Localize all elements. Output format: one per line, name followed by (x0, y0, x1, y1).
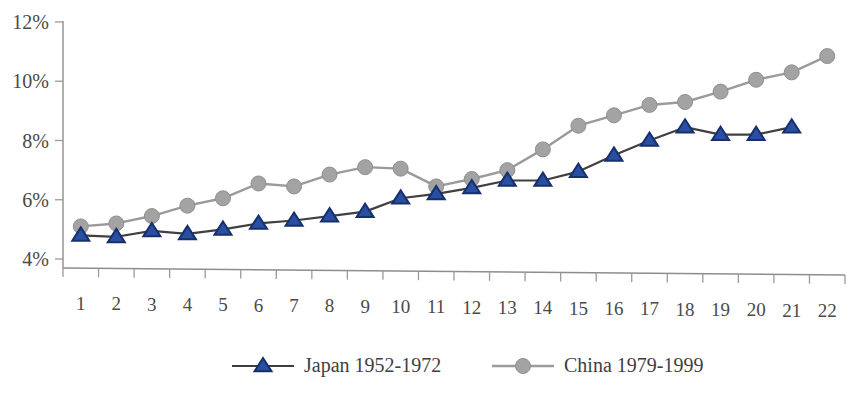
data-point-marker (358, 160, 373, 175)
x-tick-label: 2 (112, 293, 122, 314)
x-tick-label: 4 (183, 294, 193, 315)
data-point-marker (783, 119, 800, 132)
legend-marker-japan (255, 358, 272, 371)
x-tick-label: 19 (711, 299, 730, 320)
legend-marker-china (516, 359, 531, 374)
x-tick-label: 16 (604, 298, 623, 319)
x-tick-label: 17 (640, 298, 659, 319)
data-point-marker (677, 119, 694, 132)
x-tick-label: 18 (676, 299, 695, 320)
chart-container: 12%10%8%6%4% 123456789101112131415161718… (0, 0, 850, 399)
data-point-marker (820, 49, 835, 64)
x-tick-label: 13 (498, 297, 517, 318)
data-point-marker (642, 97, 657, 112)
series-china (73, 49, 834, 234)
y-tick-label: 8% (22, 130, 49, 152)
data-point-marker (322, 167, 337, 182)
x-tick-label: 3 (147, 294, 157, 315)
data-series-group (72, 49, 834, 243)
chart-legend: Japan 1952-1972China 1979-1999 (232, 354, 703, 377)
data-point-marker (251, 176, 266, 191)
y-tick-label: 6% (22, 189, 49, 211)
data-point-marker (215, 191, 230, 206)
data-point-marker (678, 94, 693, 109)
data-point-marker (713, 84, 728, 99)
x-tick-label: 10 (391, 296, 410, 317)
legend-label-china: China 1979-1999 (564, 354, 703, 376)
data-point-marker (287, 179, 302, 194)
data-point-marker (535, 142, 550, 157)
data-point-marker (571, 118, 586, 133)
x-tick-label: 12 (462, 297, 481, 318)
y-axis: 12%10%8%6%4% (12, 11, 63, 270)
y-tick-label: 12% (12, 11, 49, 33)
x-tick-label: 11 (427, 296, 445, 317)
x-tick-label: 14 (533, 297, 553, 318)
y-tick-label: 4% (22, 248, 49, 270)
x-tick-label: 9 (360, 296, 370, 317)
data-point-marker (180, 198, 195, 213)
legend-label-japan: Japan 1952-1972 (304, 354, 441, 377)
x-tick-label: 15 (569, 298, 588, 319)
y-tick-label: 10% (12, 70, 49, 92)
data-point-marker (606, 108, 621, 123)
x-tick-label: 8 (325, 295, 335, 316)
data-point-marker (570, 164, 587, 177)
data-point-marker (784, 65, 799, 80)
data-point-marker (605, 147, 622, 160)
x-tick-label: 1 (76, 293, 86, 314)
data-point-marker (749, 72, 764, 87)
data-point-marker (393, 161, 408, 176)
data-point-marker (143, 223, 160, 236)
line-chart: 12%10%8%6%4% 123456789101112131415161718… (0, 0, 850, 399)
x-axis: 12345678910111213141516171819202122 (63, 268, 845, 321)
x-tick-label: 7 (289, 295, 299, 316)
x-tick-label: 20 (747, 299, 766, 320)
x-tick-label: 5 (218, 294, 228, 315)
x-tick-label: 22 (818, 300, 837, 321)
x-tick-label: 6 (254, 295, 264, 316)
x-tick-label: 21 (782, 300, 801, 321)
